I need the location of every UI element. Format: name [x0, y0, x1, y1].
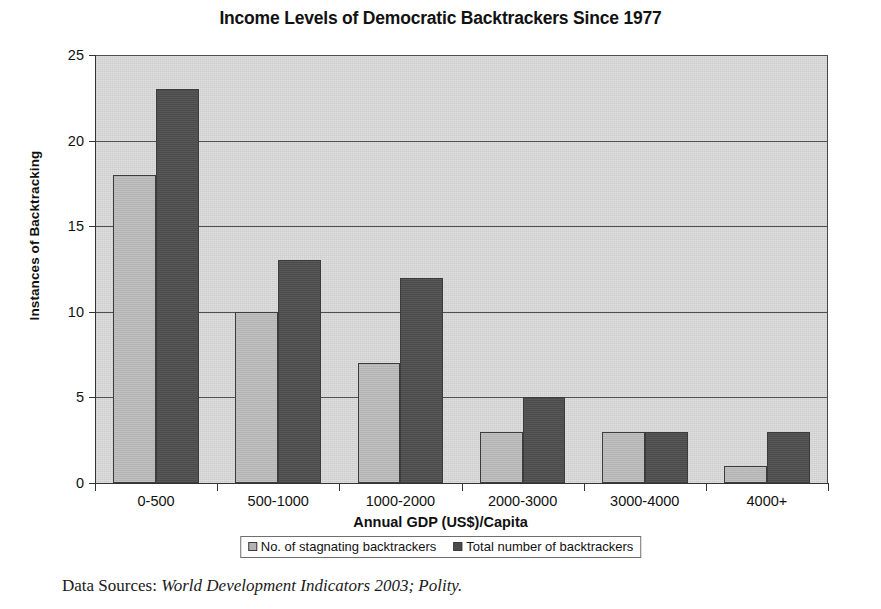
x-axis-tick — [217, 484, 218, 491]
y-axis-tick — [89, 312, 95, 313]
bar-20003000-series0 — [480, 432, 523, 483]
figure-caption: Data Sources: World Development Indicato… — [62, 576, 462, 596]
x-axis-tick — [339, 484, 340, 491]
x-axis-tick — [706, 484, 707, 491]
legend-entry-0: No. of stagnating backtrackers — [248, 539, 437, 554]
y-axis-tick-label: 0 — [14, 475, 84, 491]
caption-sources: World Development Indicators 2003; Polit… — [161, 576, 462, 595]
gridline — [95, 312, 828, 313]
gridline — [95, 55, 828, 56]
y-axis-tick-label: 10 — [14, 304, 84, 320]
y-axis-tick — [89, 141, 95, 142]
bar-4000-series0 — [724, 466, 767, 483]
y-axis-tick-label: 25 — [14, 47, 84, 63]
bar-4000-series1 — [767, 432, 810, 483]
x-axis-tick-label: 2000-3000 — [488, 493, 557, 509]
bar-30004000-series0 — [602, 432, 645, 483]
gridline — [95, 226, 828, 227]
plot-background — [95, 55, 828, 483]
x-axis-tick — [462, 484, 463, 491]
y-axis-tick — [89, 55, 95, 56]
bar-10002000-series1 — [400, 278, 443, 483]
chart-title: Income Levels of Democratic Backtrackers… — [0, 8, 881, 29]
bar-0500-series0 — [113, 175, 156, 483]
y-axis-tick — [89, 226, 95, 227]
bar-5001000-series0 — [235, 312, 278, 483]
y-axis-line — [95, 55, 96, 484]
legend-swatch-icon — [453, 542, 462, 551]
bar-20003000-series1 — [523, 397, 566, 483]
bar-5001000-series1 — [278, 260, 321, 483]
x-axis-tick-label: 1000-2000 — [366, 493, 435, 509]
legend-swatch-icon — [248, 542, 257, 551]
bar-30004000-series1 — [645, 432, 688, 483]
x-axis-tick — [95, 484, 96, 491]
gridline — [95, 397, 828, 398]
x-axis-tick-label: 500-1000 — [248, 493, 309, 509]
legend-entry-1: Total number of backtrackers — [453, 539, 633, 554]
plot-area-wrapper — [95, 55, 828, 483]
chart-legend: No. of stagnating backtrackersTotal numb… — [240, 536, 642, 558]
x-axis-tick-label: 0-500 — [138, 493, 175, 509]
legend-label: Total number of backtrackers — [466, 539, 633, 554]
x-axis-tick-label: 4000+ — [747, 493, 788, 509]
y-axis-tick-label: 15 — [14, 218, 84, 234]
caption-lead: Data Sources: — [62, 576, 157, 595]
x-axis-tick-label: 3000-4000 — [610, 493, 679, 509]
y-axis-tick-label: 20 — [14, 133, 84, 149]
y-axis-tick — [89, 397, 95, 398]
chart-figure: Income Levels of Democratic Backtrackers… — [0, 0, 881, 609]
x-axis-title: Annual GDP (US$)/Capita — [0, 514, 881, 530]
x-axis-tick — [584, 484, 585, 491]
legend-label: No. of stagnating backtrackers — [261, 539, 437, 554]
y-axis-tick-label: 5 — [14, 389, 84, 405]
bar-0500-series1 — [156, 89, 199, 483]
bar-10002000-series0 — [358, 363, 401, 483]
gridline — [95, 141, 828, 142]
x-axis-tick — [828, 484, 829, 491]
